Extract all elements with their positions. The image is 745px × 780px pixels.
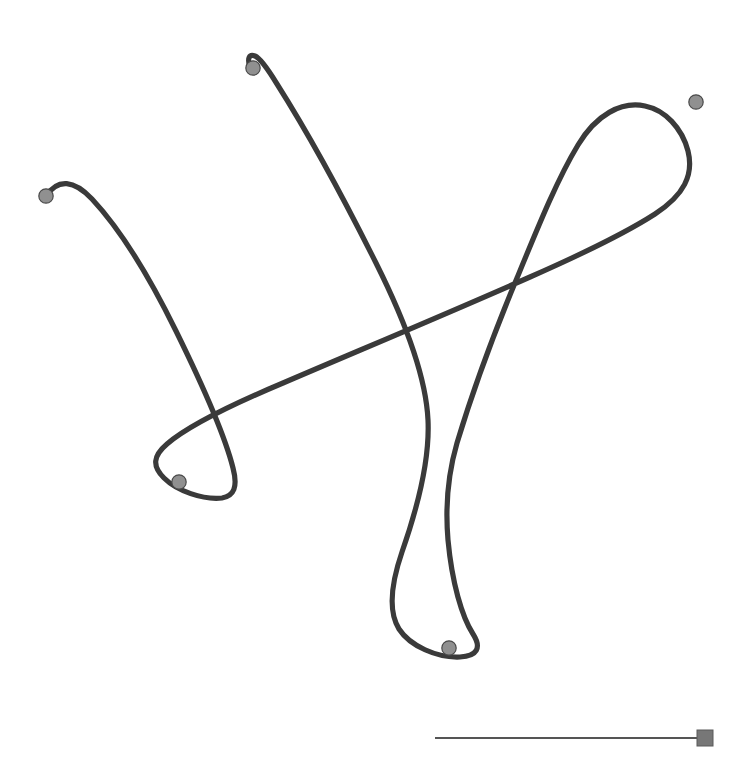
marker-node-2: [246, 61, 260, 75]
trajectory-plot-canvas: [0, 0, 745, 780]
marker-node-4: [172, 475, 186, 489]
figure-root: [0, 0, 745, 780]
marker-node-3: [689, 95, 703, 109]
marker-node-1: [39, 189, 53, 203]
scale-bar-end-square: [697, 730, 713, 746]
plot-background: [0, 0, 745, 780]
marker-node-5: [442, 641, 456, 655]
